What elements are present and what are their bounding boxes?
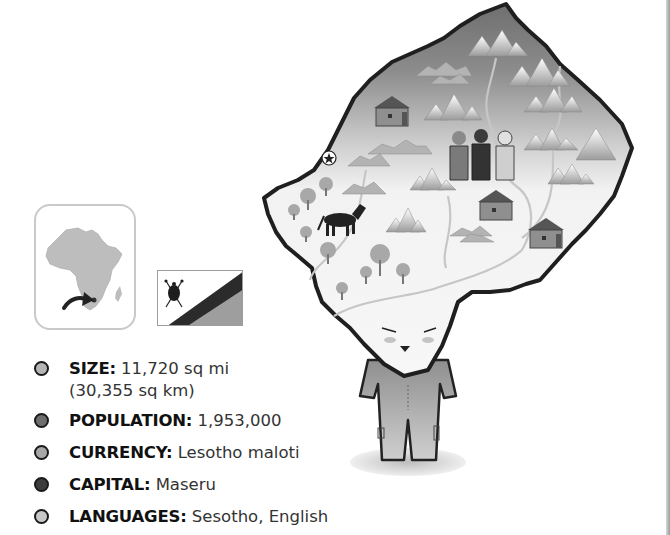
ground-shadow	[350, 448, 466, 476]
bullet-icon	[34, 413, 49, 428]
fact-value: Maseru	[156, 475, 216, 494]
lesotho-character-map	[260, 0, 670, 480]
bullet-icon	[34, 361, 49, 376]
fact-label: LANGUAGES:	[69, 507, 187, 526]
africa-locator-map	[34, 204, 136, 330]
fact-value: Sesotho, English	[192, 507, 328, 526]
star-capital-icon	[322, 151, 336, 165]
basotho-people-icons	[450, 129, 514, 180]
fact-label: CAPITAL:	[69, 475, 150, 494]
bullet-icon	[34, 445, 49, 460]
fact-label: CURRENCY:	[69, 443, 172, 462]
lesotho-flag-icon	[158, 271, 243, 326]
lesotho-flag	[157, 270, 243, 326]
bullet-icon	[34, 509, 49, 524]
bullet-icon	[34, 477, 49, 492]
fact-value-secondary: (30,355 sq km)	[69, 381, 195, 400]
fact-languages: LANGUAGES: Sesotho, English	[34, 506, 344, 528]
lesotho-map-illustration	[260, 0, 670, 480]
fact-value: 11,720 sq mi	[121, 359, 229, 378]
fact-label: POPULATION:	[69, 411, 192, 430]
fact-label: SIZE:	[69, 359, 116, 378]
africa-locator-map-icon	[36, 206, 138, 332]
